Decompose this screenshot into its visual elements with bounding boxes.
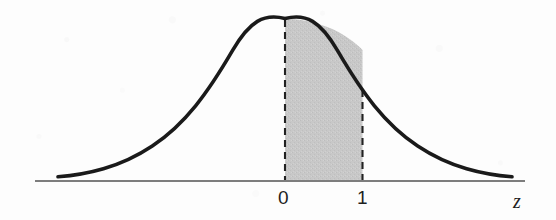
normal-distribution-figure: 0 1 z [0, 0, 556, 220]
x-axis-label-z: z [513, 191, 521, 211]
shaded-area-fill [283, 14, 365, 182]
shaded-area-region [283, 14, 365, 182]
x-tick-label-one: 1 [357, 188, 368, 207]
x-tick-label-zero: 0 [278, 188, 289, 207]
